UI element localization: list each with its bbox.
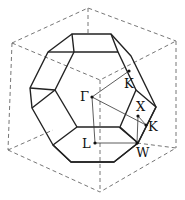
gamma-point [90,95,93,98]
label-w: W [136,145,150,160]
label-x: X [136,99,146,114]
label-k-lower: K [148,119,158,134]
x-point [136,114,139,117]
label-k-upper: K [124,76,134,91]
brillouin-zone-diagram: Γ K X K L W [0,0,185,200]
l-point [93,141,96,144]
k-point-upper [127,69,130,72]
label-l: L [82,136,91,151]
label-gamma: Γ [80,89,89,104]
